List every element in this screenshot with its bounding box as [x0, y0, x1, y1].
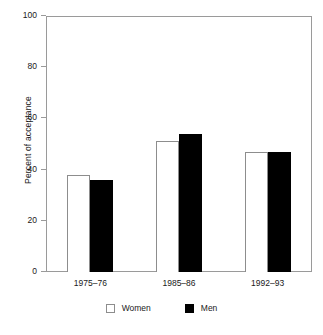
chart-legend: WomenMen: [0, 303, 323, 313]
bar-chart: Percent of acceptance 020406080100 1975–…: [0, 0, 323, 335]
legend-label: Women: [122, 303, 151, 313]
y-tick-label: 20: [28, 215, 37, 226]
legend-label: Men: [201, 303, 218, 313]
legend-item-women[interactable]: Women: [106, 303, 151, 313]
y-tick-label: 100: [23, 10, 37, 21]
y-tick-label: 60: [28, 112, 37, 123]
legend-item-men[interactable]: Men: [185, 303, 218, 313]
y-tick-label: 40: [28, 164, 37, 175]
men-swatch-icon: [185, 304, 194, 313]
bar-women-1975-76: [67, 175, 90, 272]
x-axis-label: 1985–86: [139, 278, 219, 288]
y-tick-label: 0: [32, 266, 37, 277]
bars-layer: [46, 16, 312, 272]
women-swatch-icon: [106, 304, 115, 313]
bar-men-1992-93: [268, 152, 291, 272]
x-axis-label: 1992–93: [228, 278, 308, 288]
bar-women-1985-86: [156, 141, 179, 272]
bar-women-1992-93: [245, 152, 268, 272]
bar-men-1985-86: [179, 134, 202, 272]
y-tick-label: 80: [28, 61, 37, 72]
bar-men-1975-76: [90, 180, 113, 272]
x-axis-label: 1975–76: [50, 278, 130, 288]
y-axis-title: Percent of acceptance: [23, 50, 33, 230]
